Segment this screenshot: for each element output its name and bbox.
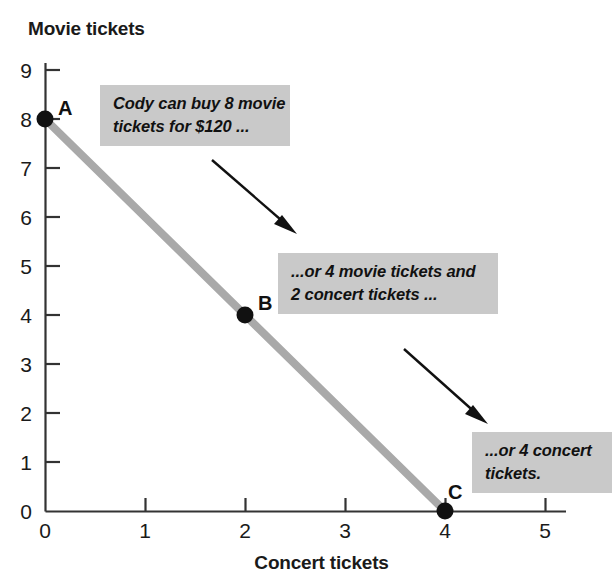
x-tick-label-3: 3 (330, 520, 360, 541)
annotation-a-line-1: Cody can buy 8 movie (113, 92, 279, 115)
y-tick-label-3: 3 (8, 354, 32, 375)
annotation-b-line-2: 2 concert tickets ... (291, 283, 487, 306)
budget-constraint-chart: Movie tickets Concert tickets (0, 0, 613, 587)
data-point-b (237, 307, 254, 324)
y-tick-label-9: 9 (8, 60, 32, 81)
annotation-a-line-2: tickets for $120 ... (113, 115, 279, 138)
x-axis-ticks (146, 498, 546, 511)
annotation-box-c: ...or 4 concert tickets. (472, 432, 612, 493)
y-tick-label-8: 8 (8, 109, 32, 130)
annotation-box-a: Cody can buy 8 movie tickets for $120 ..… (100, 85, 290, 146)
data-point-a (37, 111, 54, 128)
point-label-a: A (58, 97, 72, 120)
annotation-arrow-2 (404, 349, 488, 424)
annotation-box-b: ...or 4 movie tickets and 2 concert tick… (278, 253, 498, 314)
point-label-c: C (448, 481, 462, 504)
y-tick-label-4: 4 (8, 305, 32, 326)
annotation-arrow-1 (212, 160, 297, 234)
y-tick-label-1: 1 (8, 452, 32, 473)
x-tick-label-2: 2 (230, 520, 260, 541)
point-label-b: B (258, 292, 272, 315)
y-tick-label-0: 0 (8, 501, 32, 522)
data-point-c (437, 503, 454, 520)
x-tick-label-0: 0 (30, 520, 60, 541)
x-tick-label-5: 5 (530, 520, 560, 541)
y-tick-label-6: 6 (8, 207, 32, 228)
annotation-c-line-1: ...or 4 concert (485, 439, 601, 462)
y-tick-label-2: 2 (8, 403, 32, 424)
y-tick-label-5: 5 (8, 256, 32, 277)
y-tick-label-7: 7 (8, 158, 32, 179)
x-tick-label-4: 4 (430, 520, 460, 541)
annotation-c-line-2: tickets. (485, 462, 601, 485)
x-tick-label-1: 1 (130, 520, 160, 541)
annotation-b-line-1: ...or 4 movie tickets and (291, 260, 487, 283)
